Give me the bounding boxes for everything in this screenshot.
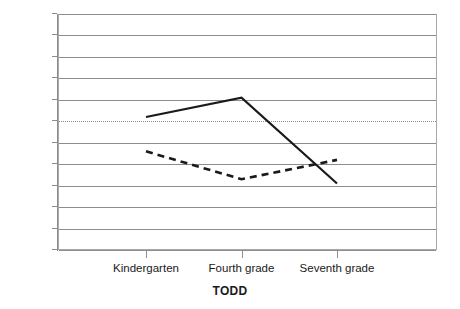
gridline [59, 164, 436, 165]
y-tick-mark [52, 56, 57, 57]
gridline [59, 250, 436, 251]
x-axis-title: TODD [0, 284, 460, 298]
x-tick-label-fourth-grade: Fourth grade [209, 262, 275, 274]
x-tick-mark [242, 251, 243, 258]
y-axis-spine [57, 14, 58, 251]
gridline [59, 78, 436, 79]
y-tick-mark [52, 228, 57, 229]
y-tick-mark [52, 34, 57, 35]
gridline [59, 207, 436, 208]
y-tick-mark [52, 163, 57, 164]
y-tick-mark [52, 99, 57, 100]
x-tick-label-seventh-grade: Seventh grade [300, 262, 375, 274]
y-tick-mark [52, 206, 57, 207]
gridline [59, 100, 436, 101]
zero-line [59, 121, 436, 122]
x-tick-label-kindergarten: Kindergarten [113, 262, 179, 274]
gridline [59, 229, 436, 230]
x-tick-mark [337, 251, 338, 258]
y-tick-mark [52, 120, 57, 121]
plot-area [58, 14, 437, 250]
x-tick-mark [146, 251, 147, 258]
y-tick-mark [52, 13, 57, 14]
gridline [59, 143, 436, 144]
gridline [59, 57, 436, 58]
line-chart-figure: 2.52.01.51.00.50−0.5−1.0−1.5−2.0−2.5−3.0… [0, 0, 460, 309]
gridline [59, 35, 436, 36]
x-axis-title-label: TODD [213, 284, 248, 298]
gridline [59, 186, 436, 187]
gridline [59, 14, 436, 15]
y-tick-mark [52, 249, 57, 250]
y-tick-mark [52, 77, 57, 78]
y-tick-mark [52, 185, 57, 186]
y-tick-mark [52, 142, 57, 143]
